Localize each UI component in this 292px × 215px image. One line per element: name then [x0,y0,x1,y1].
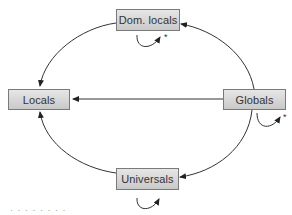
self-loop-universals [137,198,159,209]
node-universals-label: Universals [121,173,173,185]
caption-text: · · · · · · · · [10,205,66,215]
self-loop-dom-locals [137,35,160,47]
self-loop-mark-globals: * [283,112,287,122]
node-dom-locals: Dom. locals [116,9,180,31]
node-globals-label: Globals [236,94,274,106]
node-globals: Globals [223,89,286,110]
edge-universals-to-locals [40,112,116,173]
self-loop-globals [257,113,280,126]
node-locals-label: Locals [23,94,55,106]
edge-dom-locals-to-locals [40,23,116,86]
node-dom-locals-label: Dom. locals [119,14,178,26]
node-universals: Universals [116,168,179,190]
node-locals: Locals [8,89,70,110]
edge-globals-to-dom-locals [181,24,254,89]
self-loop-mark-dom-locals: * [164,32,168,42]
edge-globals-to-universals [180,110,252,177]
